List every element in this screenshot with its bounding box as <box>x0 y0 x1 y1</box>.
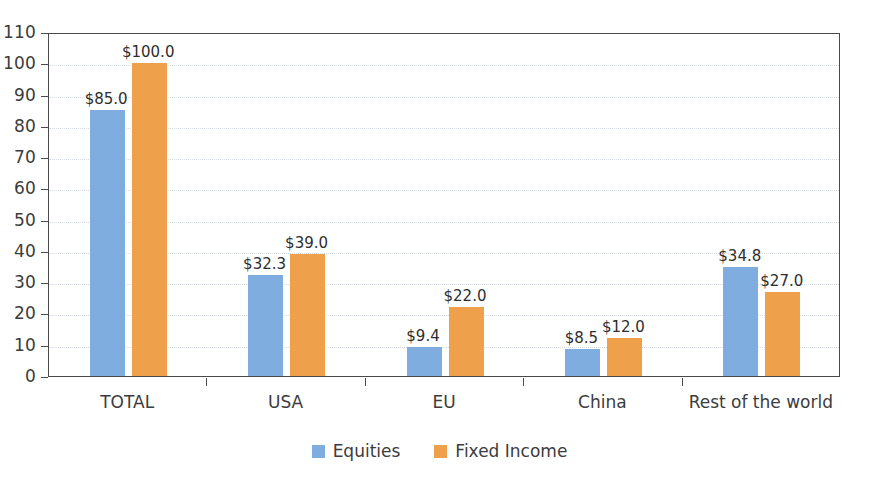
y-axis-tick-label: 30 <box>0 274 36 291</box>
bar-equities <box>565 349 600 376</box>
y-axis-tick-mark <box>41 33 48 34</box>
y-axis-tick-mark <box>41 283 48 284</box>
y-axis-tick-label: 100 <box>0 55 36 72</box>
y-axis-tick-label: 110 <box>0 24 36 41</box>
bar-equities <box>90 110 125 376</box>
bar-value-label: $12.0 <box>591 320 655 335</box>
y-axis-tick-mark <box>41 158 48 159</box>
bar-fixed-income <box>132 63 167 376</box>
chart-legend: EquitiesFixed Income <box>0 443 879 460</box>
y-axis-tick-mark <box>41 127 48 128</box>
bar-fixed-income <box>290 254 325 376</box>
x-axis-category-label: EU <box>354 392 534 412</box>
bar-equities <box>248 275 283 376</box>
gridline <box>49 159 839 160</box>
bar-chart: 0102030405060708090100110 $85.0$100.0$32… <box>0 0 879 477</box>
y-axis-tick-mark <box>41 346 48 347</box>
y-axis-tick-label: 80 <box>0 118 36 135</box>
y-axis-tick-label: 10 <box>0 337 36 354</box>
legend-swatch-icon <box>434 445 447 458</box>
bar-value-label: $27.0 <box>750 274 814 289</box>
x-axis-tick-mark <box>682 378 683 386</box>
legend-swatch-icon <box>312 445 325 458</box>
y-axis-tick-label: 20 <box>0 305 36 322</box>
y-axis-tick-mark <box>41 252 48 253</box>
legend-label: Fixed Income <box>455 443 567 460</box>
legend-item[interactable]: Fixed Income <box>434 443 567 460</box>
y-axis-tick-mark <box>41 314 48 315</box>
bar-fixed-income <box>765 292 800 376</box>
bar-value-label: $100.0 <box>116 45 180 60</box>
plot-area <box>48 33 840 377</box>
bar-value-label: $32.3 <box>233 257 297 272</box>
bar-value-label: $22.0 <box>433 289 497 304</box>
bar-value-label: $9.4 <box>391 329 455 344</box>
y-axis-tick-label: 70 <box>0 149 36 166</box>
y-axis-tick-mark <box>41 96 48 97</box>
x-axis-category-label: TOTAL <box>37 392 217 412</box>
gridline <box>49 128 839 129</box>
gridline <box>49 347 839 348</box>
x-axis-category-label: China <box>512 392 692 412</box>
x-axis-tick-mark <box>365 378 366 386</box>
gridline <box>49 190 839 191</box>
x-axis-category-label: Rest of the world <box>671 392 851 412</box>
y-axis-tick-label: 90 <box>0 87 36 104</box>
legend-item[interactable]: Equities <box>312 443 401 460</box>
gridline <box>49 284 839 285</box>
y-axis-tick-label: 40 <box>0 243 36 260</box>
y-axis-tick-label: 0 <box>0 368 36 385</box>
y-axis-tick-mark <box>41 377 48 378</box>
legend-label: Equities <box>333 443 401 460</box>
gridline <box>49 315 839 316</box>
y-axis-tick-label: 50 <box>0 212 36 229</box>
bar-value-label: $39.0 <box>275 236 339 251</box>
y-axis-tick-mark <box>41 64 48 65</box>
bar-equities <box>407 347 442 376</box>
x-axis-tick-mark <box>523 378 524 386</box>
x-axis-tick-mark <box>206 378 207 386</box>
gridline <box>49 222 839 223</box>
bar-value-label: $34.8 <box>708 249 772 264</box>
y-axis-tick-mark <box>41 189 48 190</box>
x-axis-category-label: USA <box>196 392 376 412</box>
bar-value-label: $85.0 <box>74 92 138 107</box>
y-axis-tick-label: 60 <box>0 180 36 197</box>
gridline <box>49 65 839 66</box>
gridline <box>49 97 839 98</box>
y-axis-tick-mark <box>41 221 48 222</box>
